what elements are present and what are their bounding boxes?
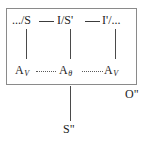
vertical-connector-left	[26, 29, 27, 59]
connector-top-mid-right	[85, 21, 100, 22]
node-bottom-middle: Aθ	[59, 64, 72, 80]
vertical-connector-middle	[70, 29, 71, 59]
syntactic-structure-diagram: .../S I/S' I'/... AV Aθ AV O" S"	[0, 0, 150, 147]
node-bottom-right-subscript: V	[113, 69, 118, 78]
node-top-right: I'/...	[102, 14, 121, 27]
node-bottom-middle-base: A	[59, 63, 68, 77]
connector-top-left-mid	[39, 21, 54, 22]
node-bottom-left: AV	[15, 64, 29, 80]
label-s-double-prime: S"	[63, 123, 75, 136]
node-bottom-left-subscript: V	[24, 69, 29, 78]
node-top-left-label: .../S	[12, 13, 31, 27]
node-top-mid-label: I/S'	[57, 13, 73, 27]
connector-bottom-left-mid	[36, 71, 56, 72]
connector-bottom-mid-right	[82, 71, 103, 72]
vertical-connector-stem	[70, 86, 71, 121]
node-bottom-middle-subscript: θ	[68, 69, 72, 78]
node-bottom-left-base: A	[15, 63, 24, 77]
node-top-right-label: I'/...	[102, 13, 121, 27]
node-bottom-right: AV	[104, 64, 118, 80]
node-top-mid: I/S'	[57, 14, 73, 27]
label-o-double-prime: O"	[125, 88, 139, 101]
vertical-connector-right	[115, 29, 116, 59]
node-bottom-right-base: A	[104, 63, 113, 77]
node-top-left: .../S	[12, 14, 31, 27]
